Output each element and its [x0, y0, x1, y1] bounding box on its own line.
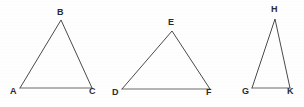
triangles-svg [0, 0, 304, 107]
triangle-def [122, 31, 210, 89]
triangle-abc [20, 20, 92, 88]
triangle-ghk [252, 19, 290, 88]
triangle-abc-sides [20, 20, 92, 88]
vertex-label-b: B [57, 8, 64, 17]
vertex-label-e: E [168, 18, 174, 27]
vertex-label-g: G [242, 87, 249, 96]
vertex-label-h: H [271, 5, 278, 14]
triangle-def-sides [122, 31, 210, 89]
vertex-label-a: A [10, 87, 17, 96]
vertex-label-k: K [287, 87, 294, 96]
vertex-label-d: D [112, 88, 119, 97]
triangle-ghk-sides [252, 19, 290, 88]
vertex-label-f: F [206, 88, 212, 97]
geometry-figure: A B C D E F G H K [0, 0, 304, 107]
vertex-label-c: C [89, 87, 96, 96]
